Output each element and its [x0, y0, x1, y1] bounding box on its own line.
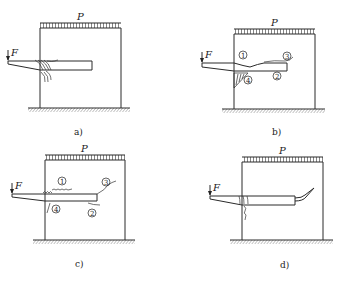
panel-c: P F 1 2 — [10, 143, 135, 269]
distributed-load-p: P — [234, 17, 315, 34]
panel-d: P F d) — [208, 145, 333, 270]
marker-2: 2 — [90, 210, 94, 218]
caption-b: b) — [272, 127, 281, 137]
marker-1: 1 — [241, 52, 245, 60]
region-markers: 1 2 3 4 — [52, 177, 110, 218]
load-label-p: P — [76, 11, 84, 22]
force-arrow-f: F — [200, 49, 213, 63]
failure-modes-diagram: P F — [0, 0, 340, 283]
ground-support — [222, 109, 325, 113]
marker-2: 2 — [275, 73, 279, 81]
caption-a: a) — [74, 127, 83, 137]
marker-3: 3 — [104, 179, 108, 187]
force-arrow-f: F — [6, 47, 19, 61]
caption-c: c) — [75, 259, 84, 269]
load-label-p: P — [270, 17, 278, 28]
force-label-f: F — [204, 49, 213, 60]
force-arrow-f: F — [10, 180, 23, 194]
panel-b: P F 1 2 — [200, 17, 325, 137]
caption-d: d) — [280, 260, 289, 270]
panel-a: P F — [6, 11, 130, 137]
cantilever-beam — [202, 63, 287, 71]
masonry-wall — [40, 28, 121, 108]
ground-support — [33, 240, 135, 244]
ground-support — [230, 240, 333, 244]
force-arrow-f: F — [208, 182, 221, 196]
crack-lines — [234, 57, 293, 88]
marker-4: 4 — [54, 206, 59, 214]
distributed-load-p: P — [45, 143, 125, 160]
load-label-p: P — [80, 143, 88, 154]
distributed-load-p: P — [242, 145, 323, 162]
marker-4: 4 — [246, 77, 251, 85]
force-label-f: F — [10, 47, 19, 58]
cantilever-beam — [210, 188, 314, 205]
distributed-load-p: P — [40, 11, 121, 28]
load-label-p: P — [278, 145, 286, 156]
marker-1: 1 — [60, 178, 64, 186]
force-label-f: F — [14, 180, 23, 191]
crack-lines — [239, 196, 248, 220]
cantilever-beam — [12, 194, 97, 201]
ground-support — [28, 108, 130, 112]
masonry-wall — [45, 160, 125, 240]
marker-3: 3 — [285, 53, 289, 61]
masonry-wall — [242, 162, 323, 240]
crack-lines — [35, 60, 58, 82]
region-markers: 1 2 3 4 — [239, 51, 291, 85]
cantilever-beam — [8, 61, 92, 70]
force-label-f: F — [212, 182, 221, 193]
